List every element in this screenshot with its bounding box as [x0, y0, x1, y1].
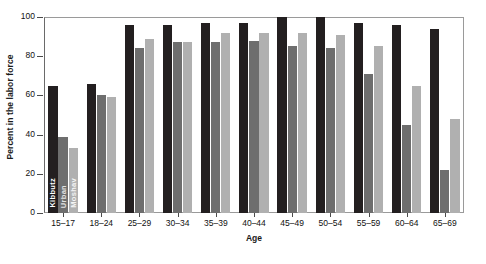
y-tick-mark — [37, 95, 43, 96]
x-tick-mark — [63, 213, 64, 217]
x-tick-mark — [101, 213, 102, 217]
bar-group — [125, 17, 154, 213]
y-tick-label: 0 — [30, 207, 35, 217]
series-inline-label-wrap: Urban — [58, 137, 67, 213]
bar-kibbutz-25-29 — [125, 25, 134, 213]
bar-moshav-65-69 — [450, 119, 459, 213]
bar-kibbutz-40-44 — [239, 23, 248, 213]
x-tick-label: 55–59 — [357, 218, 381, 228]
bar-moshav-40-44 — [259, 33, 268, 213]
bar-group — [87, 17, 116, 213]
bar-kibbutz-35-39 — [201, 23, 210, 213]
series-inline-label-moshav: Moshav — [69, 178, 78, 208]
bar-urban-18-24 — [97, 95, 106, 213]
x-tick-label: 65–69 — [433, 218, 457, 228]
x-tick-mark — [254, 213, 255, 217]
bar-urban-50-54 — [326, 48, 335, 213]
bar-kibbutz-55-59 — [354, 23, 363, 213]
bar-moshav-50-54 — [336, 35, 345, 213]
x-tick-label: 45–49 — [280, 218, 304, 228]
bar-moshav-25-29 — [145, 39, 154, 213]
bar-group — [392, 17, 421, 213]
bar-chart-figure: Percent in the labor force 020406080100 … — [0, 0, 486, 264]
bar-urban-60-64 — [402, 125, 411, 213]
x-tick-mark — [178, 213, 179, 217]
bar-urban-40-44 — [249, 41, 258, 213]
x-tick-mark — [330, 213, 331, 217]
bar-urban-30-34 — [173, 42, 182, 213]
bar-moshav-18-24 — [107, 97, 116, 213]
x-axis-label: Age — [44, 233, 464, 243]
x-tick-label: 25–29 — [128, 218, 152, 228]
x-axis-ticks: 15–1718–2425–2930–3435–3940–4445–4950–54… — [44, 213, 464, 235]
x-tick-label: 35–39 — [204, 218, 228, 228]
x-tick-mark — [292, 213, 293, 217]
bar-kibbutz-45-49 — [277, 17, 286, 213]
bar-kibbutz-65-69 — [430, 29, 439, 213]
bar-group — [163, 17, 192, 213]
bars-container: KibbutzUrbanMoshav — [44, 17, 464, 213]
series-inline-label-wrap: Moshav — [69, 148, 78, 213]
series-inline-label-kibbutz: Kibbutz — [48, 178, 57, 208]
bar-kibbutz-50-54 — [316, 17, 325, 213]
x-tick-mark — [216, 213, 217, 217]
bar-moshav-30-34 — [183, 42, 192, 213]
y-axis-label-text: Percent in the labor force — [5, 54, 15, 159]
bar-urban-45-49 — [288, 46, 297, 213]
x-tick-label: 40–44 — [242, 218, 266, 228]
bar-group — [239, 17, 268, 213]
y-tick-label: 40 — [26, 129, 35, 139]
bar-group — [201, 17, 230, 213]
bar-group — [316, 17, 345, 213]
x-tick-mark — [139, 213, 140, 217]
bar-moshav-60-64 — [412, 86, 421, 213]
bar-urban-25-29 — [135, 48, 144, 213]
y-tick-label: 100 — [21, 11, 35, 21]
bar-moshav-15-17: Moshav — [69, 148, 78, 213]
bar-urban-55-59 — [364, 74, 373, 213]
bar-moshav-45-49 — [298, 33, 307, 213]
x-tick-label: 18–24 — [89, 218, 113, 228]
bar-moshav-55-59 — [374, 46, 383, 213]
x-tick-mark — [369, 213, 370, 217]
bar-group: KibbutzUrbanMoshav — [48, 17, 77, 213]
bar-group — [430, 17, 459, 213]
y-tick-mark — [37, 135, 43, 136]
y-tick-mark — [37, 174, 43, 175]
x-tick-mark — [407, 213, 408, 217]
x-tick-label: 30–34 — [166, 218, 190, 228]
bar-moshav-35-39 — [221, 33, 230, 213]
x-tick-label: 50–54 — [319, 218, 343, 228]
bar-group — [354, 17, 383, 213]
bar-urban-65-69 — [440, 170, 449, 213]
y-tick-mark — [37, 17, 43, 18]
y-tick-label: 80 — [26, 50, 35, 60]
bar-group — [277, 17, 306, 213]
x-tick-label: 15–17 — [51, 218, 75, 228]
bar-kibbutz-18-24 — [87, 84, 96, 213]
y-tick-label: 60 — [26, 89, 35, 99]
bar-kibbutz-60-64 — [392, 25, 401, 213]
y-tick-mark — [37, 213, 43, 214]
bar-kibbutz-30-34 — [163, 25, 172, 213]
series-inline-label-wrap: Kibbutz — [48, 86, 57, 213]
x-tick-mark — [445, 213, 446, 217]
bar-kibbutz-15-17: Kibbutz — [48, 86, 57, 213]
y-axis-label: Percent in the labor force — [2, 0, 18, 214]
bar-urban-35-39 — [211, 42, 220, 213]
bar-urban-15-17: Urban — [58, 137, 67, 213]
series-inline-label-urban: Urban — [59, 185, 68, 208]
y-tick-label: 20 — [26, 168, 35, 178]
y-tick-mark — [37, 56, 43, 57]
x-tick-label: 60–64 — [395, 218, 419, 228]
